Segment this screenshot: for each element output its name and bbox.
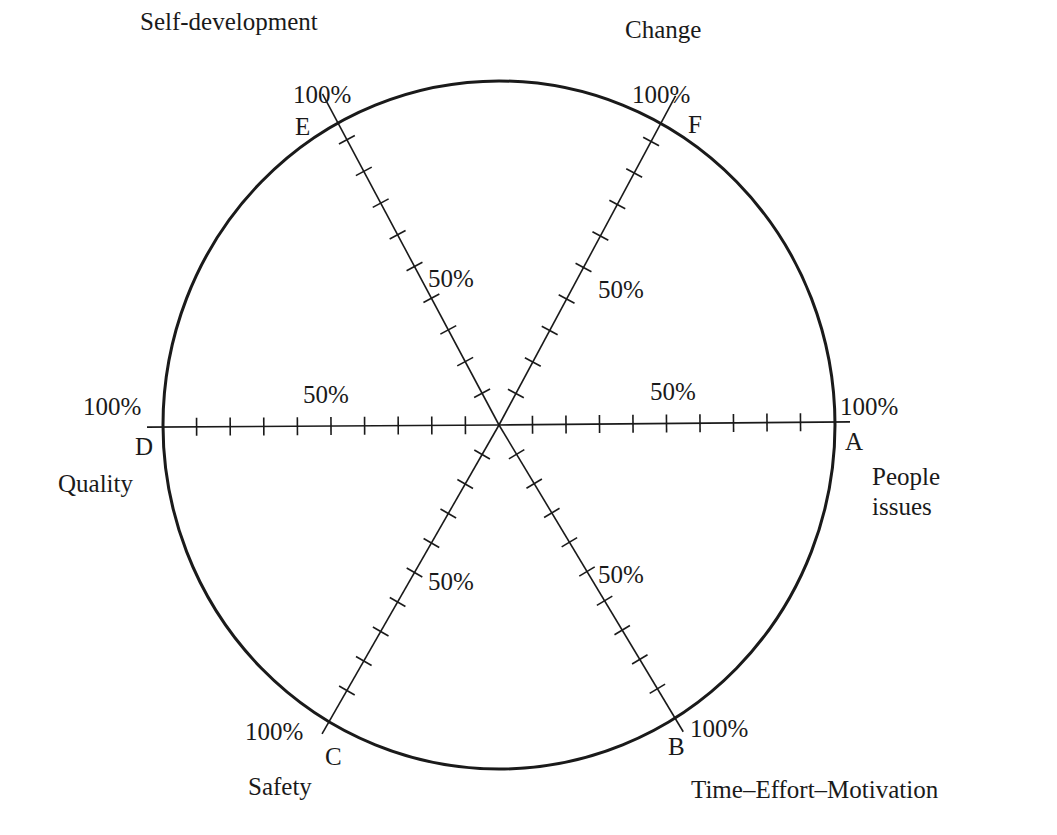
mid-label-c: 50% xyxy=(428,568,474,595)
tick-mark xyxy=(525,358,541,367)
max-label-d: 100% xyxy=(83,393,141,420)
tick-mark xyxy=(562,538,577,547)
tick-mark xyxy=(407,262,423,270)
mid-label-f: 50% xyxy=(598,276,644,303)
max-label-c: 100% xyxy=(245,718,303,745)
tick-mark xyxy=(544,508,559,517)
axis-name-d: Quality xyxy=(58,470,133,497)
max-label-f: 100% xyxy=(632,81,690,108)
wheel-svg: A100%50%PeopleissuesB100%50%Time–Effort–… xyxy=(0,0,1057,835)
axis-f xyxy=(499,96,676,425)
tick-mark xyxy=(579,567,594,576)
axis-line xyxy=(147,425,499,427)
axis-letter-d: D xyxy=(135,433,153,460)
tick-mark xyxy=(559,295,575,304)
tick-mark xyxy=(609,200,625,209)
max-label-b: 100% xyxy=(690,715,748,742)
axis-name-a: People xyxy=(872,463,940,490)
labels-group: A100%50%PeopleissuesB100%50%Time–Effort–… xyxy=(58,8,940,803)
tick-mark xyxy=(632,655,647,664)
max-label-e: 100% xyxy=(293,81,351,108)
axis-d xyxy=(147,416,499,436)
tick-mark xyxy=(356,167,372,175)
mid-label-e: 50% xyxy=(428,265,474,292)
axis-letter-e: E xyxy=(295,113,310,140)
axis-name-e: Self-development xyxy=(140,8,318,35)
tick-mark xyxy=(390,598,406,607)
max-label-a: 100% xyxy=(840,393,898,420)
tick-mark xyxy=(390,231,406,239)
mid-label-a: 50% xyxy=(650,378,696,405)
tick-mark xyxy=(597,596,612,605)
tick-mark xyxy=(339,686,355,695)
axis-name-b: Time–Effort–Motivation xyxy=(691,776,939,803)
tick-mark xyxy=(526,479,541,488)
tick-mark xyxy=(576,263,592,272)
axis-line xyxy=(499,425,683,732)
tick-mark xyxy=(457,480,473,489)
tick-mark xyxy=(592,232,608,241)
axis-letter-f: F xyxy=(688,111,702,138)
mid-label-b: 50% xyxy=(598,561,644,588)
tick-mark xyxy=(650,684,665,693)
axis-letter-b: B xyxy=(668,733,685,760)
mid-label-d: 50% xyxy=(303,381,349,408)
axis-name-c: Safety xyxy=(248,773,312,800)
axis-a xyxy=(499,413,850,433)
tick-mark xyxy=(643,137,659,146)
tick-mark xyxy=(440,509,456,518)
axis-e xyxy=(322,94,499,425)
tick-mark xyxy=(457,357,473,365)
tick-mark xyxy=(356,657,372,666)
tick-mark xyxy=(508,389,524,398)
tick-mark xyxy=(373,199,389,207)
axis-name-f: Change xyxy=(625,16,701,43)
axis-b xyxy=(499,425,683,732)
tick-mark xyxy=(474,450,490,459)
axis-letter-c: C xyxy=(325,743,342,770)
axis-letter-a: A xyxy=(845,428,863,455)
tick-mark xyxy=(474,389,490,397)
tick-mark xyxy=(407,568,423,577)
tick-mark xyxy=(440,326,456,334)
tick-mark xyxy=(424,539,440,548)
tick-mark xyxy=(423,294,439,302)
tick-mark xyxy=(542,326,558,335)
tick-mark xyxy=(614,625,629,634)
tick-mark xyxy=(626,169,642,178)
axis-line xyxy=(499,422,850,425)
axis-line xyxy=(322,94,499,425)
tick-mark xyxy=(339,135,355,143)
axis-line xyxy=(499,96,676,425)
tick-mark xyxy=(373,627,389,636)
axis-name-a: issues xyxy=(872,493,932,520)
wheel-diagram: A100%50%PeopleissuesB100%50%Time–Effort–… xyxy=(0,0,1057,835)
tick-mark xyxy=(509,450,524,459)
